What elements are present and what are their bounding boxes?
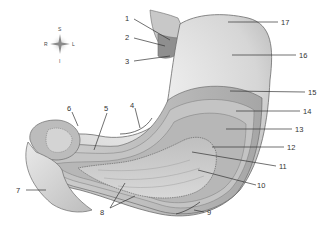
compass-star-icon	[50, 34, 70, 54]
compass-right: R	[44, 41, 48, 47]
label-11: 11	[279, 162, 287, 171]
label-9: 9	[207, 208, 211, 217]
compass-superior: S	[58, 26, 62, 32]
label-2: 2	[125, 33, 129, 42]
orientation-compass: S I R L	[44, 26, 75, 64]
label-4: 4	[130, 101, 134, 110]
label-8: 8	[100, 208, 104, 217]
label-14: 14	[303, 107, 311, 116]
compass-left: L	[72, 41, 75, 47]
label-7: 7	[16, 186, 20, 195]
label-16: 16	[299, 51, 307, 60]
label-12: 12	[287, 143, 295, 152]
label-3: 3	[125, 57, 129, 66]
label-5: 5	[104, 104, 108, 113]
stomach-diagram: S I R L 1 2 3 4	[0, 0, 333, 228]
label-15: 15	[308, 88, 316, 97]
label-17: 17	[281, 18, 289, 27]
compass-inferior: I	[59, 58, 60, 64]
label-6: 6	[67, 104, 71, 113]
label-1: 1	[125, 14, 129, 23]
label-10: 10	[257, 181, 265, 190]
label-13: 13	[295, 125, 303, 134]
